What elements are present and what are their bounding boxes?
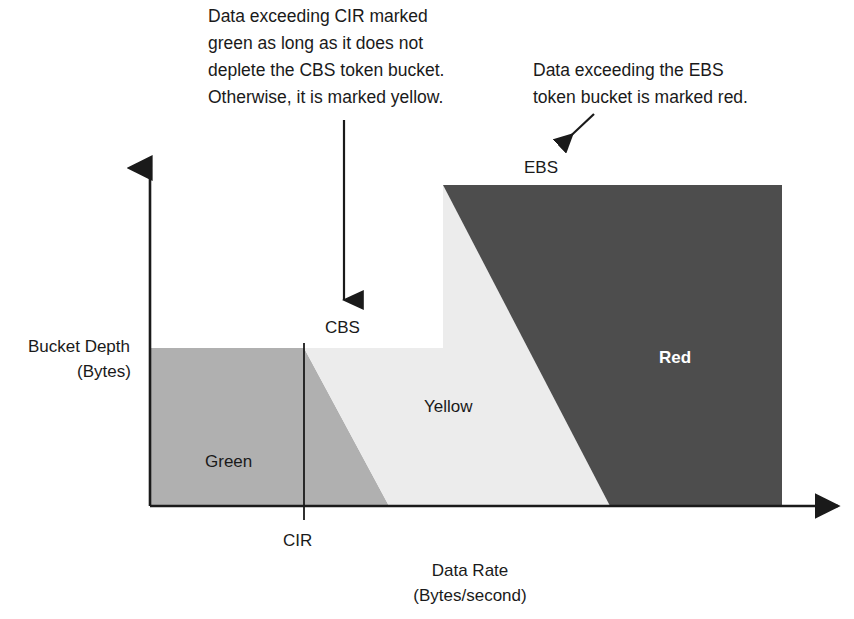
cbs-annotation-line-2: green as long as it does not	[208, 33, 423, 53]
x-axis-label: Data Rate (Bytes/second)	[413, 561, 526, 605]
cbs-annotation-text: Data exceeding CIR marked green as long …	[208, 6, 444, 107]
cbs-annotation-line-1: Data exceeding CIR marked	[208, 6, 428, 26]
ebs-annotation-text: Data exceeding the EBS token bucket is m…	[533, 60, 748, 107]
cbs-marker-label: CBS	[325, 318, 360, 337]
cbs-annotation-line-3: deplete the CBS token bucket.	[208, 60, 444, 80]
cir-marker-label: CIR	[283, 531, 312, 550]
region-label-yellow: Yellow	[424, 397, 473, 416]
x-axis-label-line-1: Data Rate	[432, 561, 509, 580]
ebs-annotation-line-1: Data exceeding the EBS	[533, 60, 724, 80]
y-axis-label: Bucket Depth (Bytes)	[28, 337, 131, 381]
two-rate-three-color-marker-diagram: Data exceeding CIR marked green as long …	[0, 0, 854, 619]
ebs-callout-arrow	[561, 114, 594, 145]
y-axis-label-line-1: Bucket Depth	[28, 337, 130, 356]
ebs-marker-label: EBS	[524, 158, 558, 177]
y-axis-label-line-2: (Bytes)	[77, 362, 131, 381]
region-label-red: Red	[659, 348, 691, 367]
ebs-annotation-line-2: token bucket is marked red.	[533, 87, 748, 107]
x-axis-label-line-2: (Bytes/second)	[413, 586, 526, 605]
chart-canvas: Data exceeding CIR marked green as long …	[0, 0, 854, 619]
cbs-annotation-line-4: Otherwise, it is marked yellow.	[208, 87, 443, 107]
region-label-green: Green	[205, 452, 252, 471]
